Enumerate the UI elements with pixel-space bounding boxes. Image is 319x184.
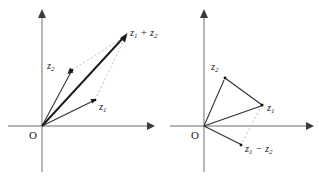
diagram-addition: z2 z1 z1 + z2 O [0,0,160,184]
label-z1-left: z1 [98,101,107,114]
vector-z1-minus-z2 [204,126,240,144]
label-z1-minus-z2: z1 − z2 [244,143,273,156]
y-axis-arrowhead-left [38,9,46,18]
label-z1-right: z1 [266,102,275,115]
guide-z1-to-sum [95,38,125,100]
vector-z1-right [204,106,261,126]
x-axis-arrowhead-left [147,122,155,130]
point-z2-right [224,77,227,80]
label-origin-right: O [191,129,199,141]
y-axis-arrowhead-right [200,9,208,18]
figure-canvas: z2 z1 z1 + z2 O [0,0,319,184]
point-z1-left [94,99,97,102]
vector-z2-right [204,80,224,126]
label-z2-right: z2 [210,61,219,74]
edge-z2-to-z1 [225,78,262,105]
label-z2-left: z2 [46,60,55,73]
guide-z1-to-difference [242,105,262,143]
x-axis-arrowhead-right [306,122,314,130]
point-z1-right [260,103,263,106]
label-origin-left: O [29,129,37,141]
vector-z1-plus-z2 [42,38,123,126]
diagram-subtraction: z2 z1 z1 − z2 O [160,0,319,184]
point-z2-left [71,69,74,72]
vector-z1-left [42,101,93,126]
label-z1-plus-z2: z1 + z2 [129,27,158,40]
point-z1-minus-z2 [240,144,243,147]
